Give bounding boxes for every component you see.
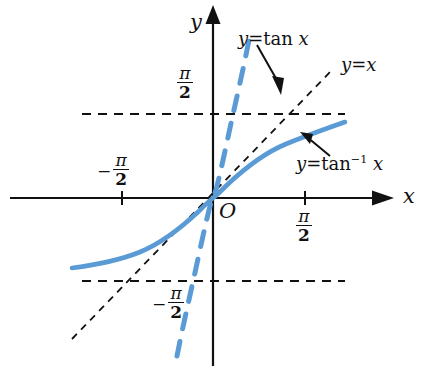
fraction-numerator: π xyxy=(296,208,312,226)
minus-sign: − xyxy=(97,163,113,180)
tan-label-arrow-line xyxy=(257,45,278,82)
identity-label-y: y xyxy=(341,54,351,75)
tan-label-equals: = xyxy=(248,28,263,49)
identity-line xyxy=(72,71,331,339)
minus-sign: − xyxy=(152,296,168,313)
x-axis-label: x xyxy=(403,186,415,207)
x-tick-label-pi-over-2: π 2 xyxy=(296,208,312,245)
fraction-numerator: π xyxy=(113,152,129,170)
arctan-label-equals: = xyxy=(306,153,321,174)
y-tick-label-pi-over-2: π 2 xyxy=(177,65,193,102)
fraction-numerator: π xyxy=(177,65,193,83)
arctan-label-y: y xyxy=(296,153,306,174)
fraction-denominator: 2 xyxy=(177,83,193,101)
arctan-curve-label: y=tan−1 x xyxy=(296,155,383,173)
fraction-numerator: π xyxy=(168,285,184,303)
identity-line-label: y=x xyxy=(341,56,376,74)
y-axis-label: y xyxy=(190,12,202,33)
y-axis-arrowhead xyxy=(206,5,221,24)
fraction-denominator: 2 xyxy=(113,170,129,188)
tan-label-argument: x xyxy=(299,28,309,49)
arctan-label-function: tan xyxy=(321,153,351,174)
origin-label: O xyxy=(219,201,236,222)
x-tick-label-negative-pi-over-2: − π 2 xyxy=(97,152,129,189)
identity-label-equals: = xyxy=(351,54,366,75)
x-axis-arrowhead xyxy=(372,191,394,206)
identity-label-argument: x xyxy=(366,54,376,75)
fraction-denominator: 2 xyxy=(296,226,312,244)
fraction-denominator: 2 xyxy=(168,303,184,321)
tan-curve-label: y=tan x xyxy=(238,30,309,48)
arctan-label-argument: x xyxy=(373,153,383,174)
arctan-label-exponent: −1 xyxy=(351,153,367,166)
tan-label-arrowhead xyxy=(272,76,284,95)
tan-label-function: tan xyxy=(263,28,293,49)
tan-label-y: y xyxy=(238,28,248,49)
y-tick-label-negative-pi-over-2: − π 2 xyxy=(152,285,184,322)
